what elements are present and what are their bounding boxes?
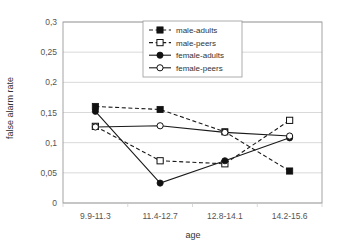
- x-axis-tick-marks: [63, 203, 322, 207]
- legend-marker-male-peers: [157, 40, 163, 46]
- data-point-male-adults: [157, 106, 163, 112]
- false-alarm-rate-line-chart: 00,050,10,150,20,250,3 9.9-11.311.4-12.7…: [0, 0, 345, 250]
- y-tick-label: 0,15: [40, 108, 57, 118]
- y-tick-label: 0,1: [45, 138, 57, 148]
- series-line-female-peers: [95, 126, 289, 136]
- y-tick-label: 0: [52, 198, 57, 208]
- legend-marker-female-peers: [157, 65, 163, 71]
- x-tick-label: 9.9-11.3: [80, 211, 111, 221]
- series-line-female-adults: [95, 111, 289, 183]
- x-axis-tick-labels: 9.9-11.311.4-12.712.8-14.114.2-15.6: [80, 211, 308, 221]
- y-tick-label: 0,25: [40, 47, 57, 57]
- y-tick-label: 0,2: [45, 77, 57, 87]
- chart-legend: male-adultsmale-peersfemale-adultsfemale…: [143, 21, 242, 77]
- data-point-female-adults: [222, 158, 228, 164]
- y-axis-title: false alarm rate: [5, 77, 15, 139]
- y-tick-label: 0,3: [45, 17, 57, 27]
- data-point-female-peers: [157, 123, 163, 129]
- x-tick-label: 11.4-12.7: [142, 211, 178, 221]
- legend-label-male-peers: male-peers: [176, 39, 216, 48]
- data-point-female-adults: [157, 180, 163, 186]
- data-point-male-peers: [287, 117, 293, 123]
- data-point-female-peers: [92, 124, 98, 130]
- data-point-female-peers: [222, 129, 228, 135]
- legend-marker-male-adults: [157, 27, 163, 33]
- x-axis-title: age: [185, 230, 200, 240]
- y-tick-label: 0,05: [40, 168, 57, 178]
- x-tick-label: 12.8-14.1: [207, 211, 243, 221]
- data-point-female-peers: [287, 133, 293, 139]
- legend-label-female-adults: female-adults: [176, 51, 224, 60]
- chart-container: 00,050,10,150,20,250,3 9.9-11.311.4-12.7…: [0, 0, 345, 250]
- data-point-female-adults: [92, 108, 98, 114]
- data-point-male-peers: [157, 158, 163, 164]
- x-tick-label: 14.2-15.6: [272, 211, 308, 221]
- legend-marker-female-adults: [157, 52, 163, 58]
- y-axis-tick-labels: 00,050,10,150,20,250,3: [40, 17, 57, 208]
- legend-label-female-peers: female-peers: [176, 64, 223, 73]
- series-line-male-adults: [95, 106, 289, 171]
- data-series: [92, 103, 292, 186]
- data-point-male-adults: [287, 168, 293, 174]
- legend-label-male-adults: male-adults: [176, 26, 217, 35]
